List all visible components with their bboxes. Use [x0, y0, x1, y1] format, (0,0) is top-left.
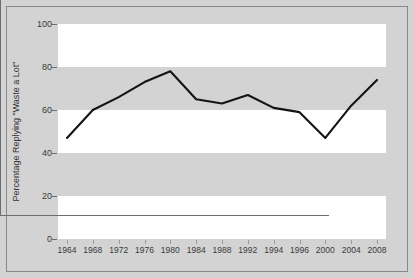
y-tick-mark [52, 153, 57, 154]
x-tick-label: 2008 [368, 245, 387, 255]
y-tick-mark [52, 239, 57, 240]
series-line [58, 24, 386, 239]
x-tick-mark [377, 240, 378, 244]
x-tick-label: 1996 [290, 245, 309, 255]
plot-wrapper [58, 24, 386, 239]
x-tick-mark [93, 240, 94, 244]
x-tick-label: 1992 [238, 245, 257, 255]
x-tick-label: 1980 [161, 245, 180, 255]
x-tick-label: 1972 [109, 245, 128, 255]
y-axis-line [0, 0, 1, 215]
x-tick-mark [325, 240, 326, 244]
x-tick-mark [67, 240, 68, 244]
y-tick-label: 100 [37, 19, 52, 29]
y-tick-mark [52, 24, 57, 25]
x-tick-label: 1988 [213, 245, 232, 255]
x-tick-label: 1968 [83, 245, 102, 255]
y-tick-mark [52, 196, 57, 197]
x-tick-mark [248, 240, 249, 244]
x-tick-label: 1984 [187, 245, 206, 255]
x-tick-label: 2004 [342, 245, 361, 255]
x-tick-label: 2000 [316, 245, 335, 255]
x-axis-line [0, 215, 329, 216]
x-tick-mark [300, 240, 301, 244]
y-axis-label: Percentage Replying "Waste a Lot" [8, 24, 24, 239]
y-tick-label: 80 [42, 62, 52, 72]
x-tick-label: 1994 [264, 245, 283, 255]
y-axis-tick-labels: 100806040200 [28, 24, 52, 239]
y-tick-mark [52, 110, 57, 111]
x-tick-mark [170, 240, 171, 244]
x-tick-label: 1976 [135, 245, 154, 255]
x-tick-mark [119, 240, 120, 244]
x-tick-label: 1964 [58, 245, 77, 255]
chart-figure: Percentage Replying "Waste a Lot" 100806… [0, 0, 414, 278]
y-tick-mark [52, 67, 57, 68]
x-tick-mark [274, 240, 275, 244]
x-tick-mark [145, 240, 146, 244]
y-tick-label: 40 [42, 148, 52, 158]
x-tick-mark [196, 240, 197, 244]
x-tick-mark [222, 240, 223, 244]
y-tick-label: 60 [42, 105, 52, 115]
x-tick-mark [351, 240, 352, 244]
y-tick-label: 20 [42, 191, 52, 201]
